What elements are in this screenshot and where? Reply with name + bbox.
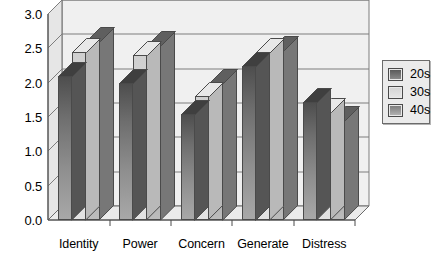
bar-side-face: [255, 52, 271, 223]
bar-front-face: [119, 83, 133, 220]
bar-top-face: [195, 82, 225, 98]
bar-side-face: [194, 100, 210, 222]
bar-side-face: [316, 88, 332, 222]
legend-item-20s: 20s: [388, 65, 424, 83]
bar-side-face: [330, 98, 346, 222]
bar-identity-20s: [58, 76, 72, 220]
bar-power-20s: [119, 83, 133, 220]
legend-label: 40s: [410, 104, 430, 117]
legend-label: 30s: [410, 86, 430, 99]
bar-chart: 3.0 2.5 2.0 1.5 1.0 0.5 0.0 IdentityPowe…: [0, 0, 434, 262]
bar-front-face: [181, 114, 195, 220]
bar-side-face: [283, 36, 299, 222]
x-tick-label-distress: Distress: [284, 238, 365, 251]
legend-swatch-icon: [388, 86, 403, 99]
bar-side-face: [160, 31, 176, 222]
bar-top-face: [181, 100, 211, 116]
bar-side-face: [344, 106, 360, 222]
x-axis-labels: IdentityPowerConcernGenerateDistress: [48, 238, 355, 258]
bar-front-face: [58, 76, 72, 220]
bar-generate-20s: [242, 66, 256, 221]
bar-concern-20s: [181, 114, 195, 220]
legend: 20s 30s 40s: [382, 60, 430, 124]
bar-top-face: [133, 41, 163, 57]
legend-swatch-icon: [388, 68, 403, 81]
bar-front-face: [242, 66, 256, 221]
bars-layer: [0, 0, 434, 262]
bar-top-face: [72, 38, 102, 54]
bar-front-face: [303, 102, 317, 220]
bar-top-face: [242, 52, 272, 68]
bar-top-face: [303, 88, 333, 104]
bar-side-face: [132, 69, 148, 222]
bar-side-face: [99, 27, 115, 222]
legend-label: 20s: [410, 68, 430, 81]
legend-item-40s: 40s: [388, 101, 424, 119]
bar-top-face: [58, 62, 88, 78]
bar-top-face: [119, 69, 149, 85]
bar-distress-20s: [303, 102, 317, 220]
legend-swatch-icon: [388, 104, 403, 117]
bar-side-face: [71, 62, 87, 222]
legend-item-30s: 30s: [388, 83, 424, 101]
